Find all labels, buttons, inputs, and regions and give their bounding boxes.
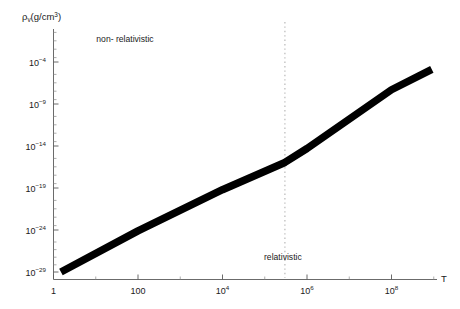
x-axis-title: T <box>441 273 447 284</box>
tick-exponent: 6 <box>310 284 314 291</box>
tick-exponent: −9 <box>39 98 47 105</box>
tick-exponent: −4 <box>39 56 47 63</box>
y-axis-title: ρv(g/cm3) <box>22 11 61 24</box>
x-axis-ticks <box>54 275 392 280</box>
y-tick-label: 10−24 <box>25 224 46 236</box>
x-tick-label: 104 <box>216 284 230 296</box>
tick-exponent: −24 <box>36 224 47 231</box>
y-tick-label: 10−19 <box>25 182 46 194</box>
tick-exponent: 4 <box>226 284 230 291</box>
y-tick-label: 10−9 <box>29 98 47 110</box>
x-tick-label: 106 <box>300 284 314 296</box>
y-tick-label: 10−4 <box>29 56 47 68</box>
tick-exponent: −29 <box>36 266 47 273</box>
chart-plot-area: 10−4 10−9 10−14 10−19 10−24 10−29 1 100 … <box>0 0 460 309</box>
rho-v-data-curve <box>61 69 432 272</box>
x-tick-label: 1 <box>51 286 56 296</box>
tick-exponent: −19 <box>36 182 47 189</box>
x-tick-label: 108 <box>385 284 399 296</box>
chart-figure: 10−4 10−9 10−14 10−19 10−24 10−29 1 100 … <box>0 0 460 309</box>
x-axis-tick-labels: 1 100 104 106 108 <box>51 284 399 296</box>
y-tick-label: 10−29 <box>25 266 46 278</box>
tick-exponent: 8 <box>395 284 399 291</box>
tick-exponent: −14 <box>36 140 47 147</box>
y-axis-tick-labels: 10−4 10−9 10−14 10−19 10−24 10−29 <box>25 56 46 278</box>
y-tick-label: 10−14 <box>25 140 46 152</box>
x-tick-label: 100 <box>130 286 145 296</box>
relativistic-annotation: relativistic <box>264 252 302 262</box>
non-relativistic-annotation: non- relativistic <box>96 34 154 44</box>
